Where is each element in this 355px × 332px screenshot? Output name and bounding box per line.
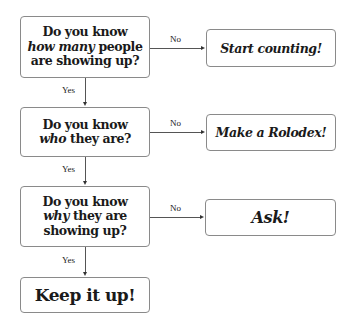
final-box-keep-it-up: Keep it up! [20, 277, 150, 313]
yes-label: Yes [62, 164, 75, 174]
outcome-text: Ask! [252, 208, 290, 227]
question-line: Do you know [27, 25, 142, 40]
no-label: No [170, 203, 181, 213]
yes-connector [85, 247, 86, 273]
no-connector [150, 217, 201, 218]
arrow-right-icon [200, 215, 204, 219]
no-connector [150, 132, 202, 133]
question-box-who: Do you know who they are? [20, 107, 150, 157]
no-label: No [170, 118, 181, 128]
question-box-why: Do you know why they are showing up? [20, 186, 150, 247]
question-line: Do you know [39, 118, 131, 133]
no-connector [150, 48, 202, 49]
question-emphasis: how many [27, 39, 94, 54]
question-line: people [94, 39, 142, 54]
question-emphasis: who [39, 131, 66, 146]
final-text: Keep it up! [35, 285, 135, 305]
question-line: Do you know [42, 195, 127, 210]
arrow-down-icon [83, 181, 87, 185]
yes-connector [85, 157, 86, 182]
outcome-box-start-counting: Start counting! [206, 29, 336, 67]
yes-label: Yes [62, 255, 75, 265]
outcome-box-make-rolodex: Make a Rolodex! [206, 114, 336, 151]
arrow-right-icon [201, 46, 205, 50]
no-label: No [170, 34, 181, 44]
arrow-right-icon [201, 130, 205, 134]
question-line: showing up? [42, 224, 127, 239]
yes-connector [85, 78, 86, 103]
outcome-text: Start counting! [220, 41, 322, 56]
outcome-box-ask: Ask! [205, 199, 336, 236]
yes-label: Yes [62, 85, 75, 95]
question-line: they are? [66, 131, 131, 146]
question-emphasis: why [43, 208, 69, 223]
arrow-down-icon [83, 272, 87, 276]
outcome-text: Make a Rolodex! [216, 125, 327, 140]
question-line: they are [69, 208, 127, 223]
question-line: are showing up? [27, 54, 142, 69]
question-box-how-many: Do you know how many people are showing … [20, 16, 150, 78]
arrow-down-icon [83, 102, 87, 106]
